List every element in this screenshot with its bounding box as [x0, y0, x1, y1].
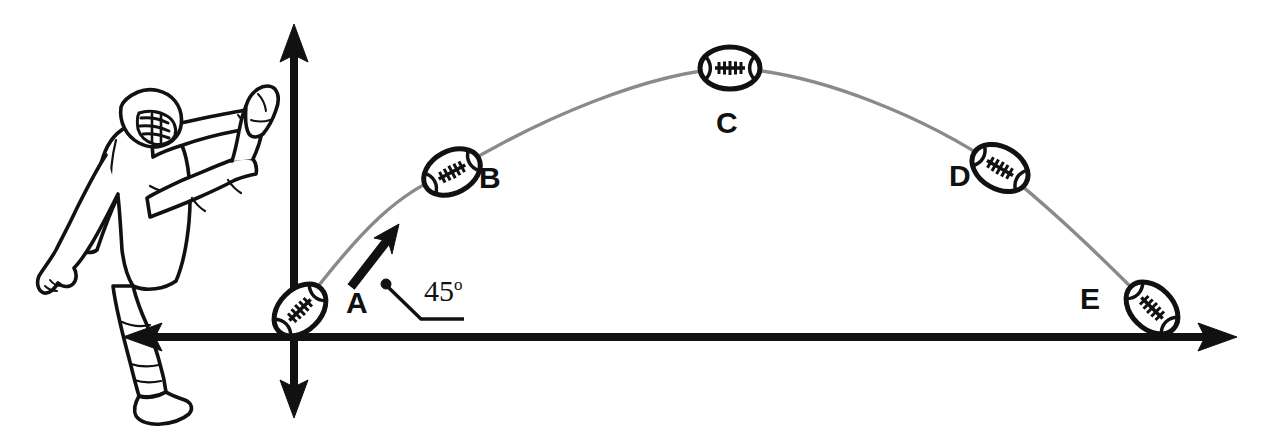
- launch-angle-value: 45: [424, 274, 454, 307]
- football-c: [700, 47, 760, 89]
- axes-group: [123, 24, 1237, 418]
- diagram-canvas: [0, 0, 1264, 439]
- launch-angle-label: 45o: [424, 276, 463, 306]
- point-label-d: D: [949, 161, 971, 191]
- point-label-a: A: [346, 288, 368, 318]
- football-b: [416, 139, 489, 204]
- football-player-punting: [38, 86, 279, 424]
- point-label-b: B: [479, 163, 501, 193]
- degree-symbol: o: [454, 275, 463, 294]
- point-label-c: C: [716, 108, 738, 138]
- launch-velocity-arrow: [351, 224, 399, 287]
- projectile-motion-figure: A B C D E 45o: [0, 0, 1264, 439]
- point-label-e: E: [1080, 284, 1100, 314]
